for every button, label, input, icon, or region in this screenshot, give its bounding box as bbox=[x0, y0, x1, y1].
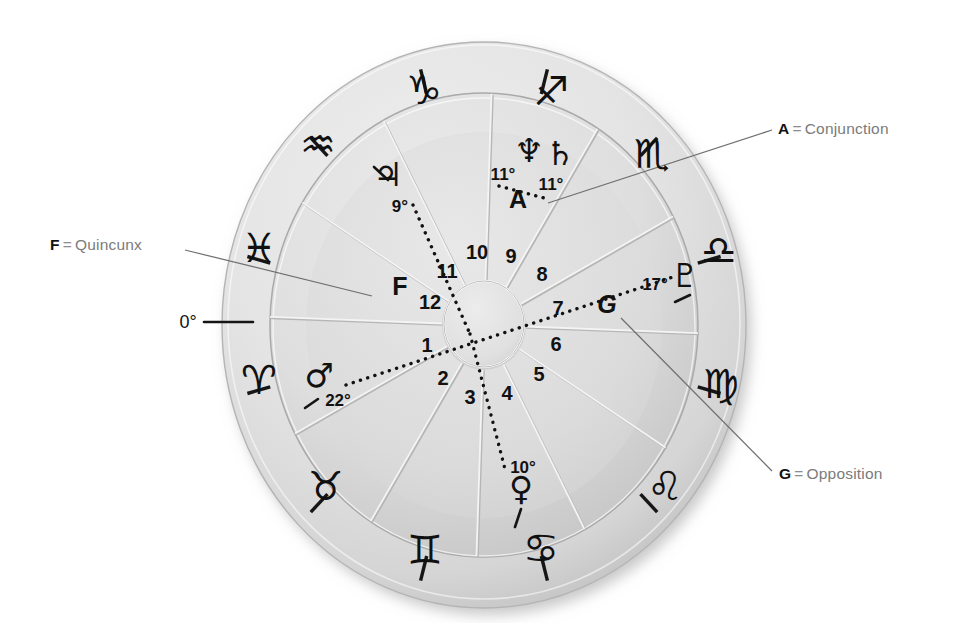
zodiac-glyph-cancer: ♋ bbox=[523, 525, 559, 571]
degree-label-mars: 22° bbox=[325, 391, 351, 410]
house-number-1: 1 bbox=[421, 334, 432, 356]
zodiac-glyph-libra: ♎ bbox=[701, 227, 737, 273]
aspect-marker-g: G bbox=[597, 290, 616, 318]
house-number-2: 2 bbox=[437, 367, 448, 389]
house-number-4: 4 bbox=[501, 382, 513, 404]
aspect-marker-a: A bbox=[509, 185, 527, 213]
house-number-9: 9 bbox=[505, 245, 516, 267]
zodiac-glyph-scorpio: ♏ bbox=[634, 131, 670, 177]
house-number-12: 12 bbox=[419, 291, 441, 313]
degree-label-saturn: 11° bbox=[539, 175, 564, 194]
planet-glyph-saturn: ♄ bbox=[545, 134, 575, 173]
legend-conjunction: A=Conjunction bbox=[778, 120, 889, 138]
zodiac-glyph-virgo: ♍ bbox=[703, 361, 739, 407]
planet-glyph-jupiter: ♃ bbox=[373, 155, 403, 194]
chart-figure: ♑♐♏♎♍♌♋♊♉♈♓♒123456789101112♆11°♄11°♃9°♂2… bbox=[0, 0, 967, 623]
zodiac-glyph-taurus: ♉ bbox=[308, 463, 344, 509]
zero-degree-label: 0° bbox=[179, 312, 196, 332]
house-number-11: 11 bbox=[436, 260, 457, 282]
zodiac-glyph-capricorn: ♑ bbox=[406, 67, 442, 113]
planet-glyph-neptune: ♆ bbox=[514, 131, 544, 170]
legend-equals-g: = bbox=[794, 465, 803, 482]
degree-label-neptune: 11° bbox=[491, 165, 516, 184]
house-number-5: 5 bbox=[533, 363, 544, 385]
zodiac-glyph-aquarius: ♒ bbox=[300, 121, 336, 167]
house-number-3: 3 bbox=[464, 386, 475, 408]
zodiac-glyph-gemini: ♊ bbox=[407, 527, 443, 573]
legend-text-f: Quincunx bbox=[75, 236, 142, 253]
planet-glyph-mars: ♂ bbox=[304, 356, 334, 395]
legend-text-a: Conjunction bbox=[805, 120, 889, 137]
zodiac-glyph-pisces: ♓ bbox=[241, 225, 277, 271]
legend-quincunx: F=Quincunx bbox=[50, 236, 142, 254]
zodiac-glyph-sagittarius: ♐ bbox=[533, 68, 569, 114]
legend-equals-f: = bbox=[63, 236, 72, 253]
degree-label-venus: 10° bbox=[510, 458, 536, 477]
legend-key-a: A bbox=[778, 120, 789, 137]
degree-label-jupiter: 9° bbox=[392, 197, 408, 216]
center-hub bbox=[442, 280, 526, 370]
legend-key-f: F bbox=[50, 236, 60, 253]
zodiac-glyph-aries: ♈ bbox=[241, 357, 277, 403]
astrology-wheel-svg: ♑♐♏♎♍♌♋♊♉♈♓♒123456789101112♆11°♄11°♃9°♂2… bbox=[0, 0, 967, 623]
degree-label-pluto: 17° bbox=[642, 275, 668, 294]
aspect-marker-f: F bbox=[392, 272, 407, 300]
house-number-10: 10 bbox=[466, 241, 488, 263]
planet-glyph-pluto: ♇ bbox=[670, 256, 700, 295]
legend-text-g: Opposition bbox=[807, 465, 883, 482]
house-number-8: 8 bbox=[536, 263, 547, 285]
legend-opposition: G=Opposition bbox=[779, 465, 883, 483]
legend-key-g: G bbox=[779, 465, 791, 482]
legend-equals-a: = bbox=[792, 120, 801, 137]
house-number-7: 7 bbox=[552, 297, 563, 319]
house-number-6: 6 bbox=[550, 333, 561, 355]
zodiac-glyph-leo: ♌ bbox=[647, 463, 683, 509]
